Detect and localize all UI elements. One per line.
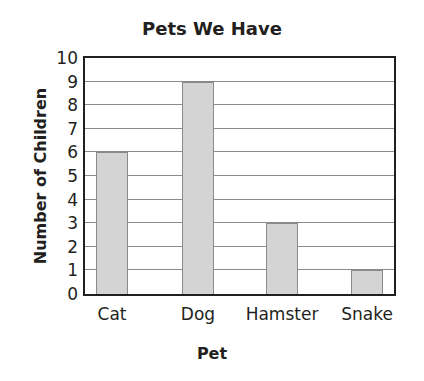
gridline (85, 175, 394, 176)
plot-area (83, 56, 396, 296)
y-tick-label: 6 (54, 144, 78, 161)
x-tick-label: Snake (341, 304, 393, 324)
bar-hamster (266, 223, 298, 294)
gridline (85, 128, 394, 129)
y-tick-label: 9 (54, 73, 78, 90)
gridline (85, 151, 394, 152)
y-tick-label: 2 (54, 238, 78, 255)
gridline (85, 269, 394, 270)
y-tick-label: 4 (54, 191, 78, 208)
gridline (85, 104, 394, 105)
x-tick-label: Hamster (246, 304, 319, 324)
y-tick-label: 3 (54, 215, 78, 232)
bar-cat (96, 152, 128, 294)
x-axis-label: Pet (0, 344, 424, 363)
y-tick-label: 10 (54, 50, 78, 67)
gridline (85, 222, 394, 223)
x-tick-label: Cat (98, 304, 127, 324)
y-tick-label: 7 (54, 120, 78, 137)
y-tick-label: 1 (54, 262, 78, 279)
y-tick-label: 5 (54, 168, 78, 185)
chart-title: Pets We Have (0, 18, 424, 39)
y-axis-label: Number of Children (31, 88, 50, 264)
gridline (85, 81, 394, 82)
y-tick-label: 8 (54, 97, 78, 114)
bar-dog (182, 82, 214, 294)
gridline (85, 199, 394, 200)
y-tick-label: 0 (54, 286, 78, 303)
x-tick-label: Dog (181, 304, 215, 324)
bar-snake (351, 270, 383, 294)
gridline (85, 246, 394, 247)
